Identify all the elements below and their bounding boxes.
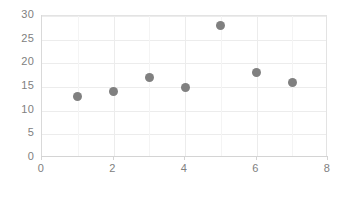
gridline-vertical-minor <box>149 16 150 156</box>
gridline-vertical <box>114 16 115 156</box>
y-axis-tick-label: 30 <box>4 9 34 20</box>
gridline-horizontal <box>42 40 326 41</box>
x-axis-tick-label: 0 <box>26 163 56 174</box>
x-axis-tick-mark <box>327 157 328 160</box>
data-point-marker[interactable] <box>181 83 190 92</box>
data-point-marker[interactable] <box>73 92 82 101</box>
y-axis-tick-label: 5 <box>4 127 34 138</box>
y-axis-tick-label: 15 <box>4 80 34 91</box>
gridline-horizontal <box>42 134 326 135</box>
gridline-horizontal <box>42 16 326 17</box>
x-axis-tick-label: 6 <box>241 163 271 174</box>
plot-area <box>41 15 327 157</box>
y-axis-tick-label: 20 <box>4 56 34 67</box>
data-point-marker[interactable] <box>145 73 154 82</box>
gridline-vertical <box>257 16 258 156</box>
y-axis-line <box>41 15 42 157</box>
gridline-horizontal <box>42 63 326 64</box>
x-axis-tick-mark <box>113 157 114 160</box>
x-axis-tick-label: 8 <box>312 163 342 174</box>
data-point-marker[interactable] <box>288 78 297 87</box>
x-axis-tick-label: 2 <box>98 163 128 174</box>
x-axis-tick-mark <box>41 157 42 160</box>
data-point-marker[interactable] <box>109 87 118 96</box>
gridline-vertical-minor <box>78 16 79 156</box>
x-axis-tick-mark <box>184 157 185 160</box>
x-axis-tick-mark <box>256 157 257 160</box>
data-point-marker[interactable] <box>216 21 225 30</box>
gridline-vertical-minor <box>221 16 222 156</box>
gridline-horizontal <box>42 111 326 112</box>
scatter-chart: 051015202530 02468 <box>0 0 342 201</box>
y-axis-tick-label: 25 <box>4 33 34 44</box>
x-axis-tick-label: 4 <box>169 163 199 174</box>
y-axis-tick-label: 0 <box>4 151 34 162</box>
data-point-marker[interactable] <box>252 68 261 77</box>
y-axis-tick-label: 10 <box>4 104 34 115</box>
